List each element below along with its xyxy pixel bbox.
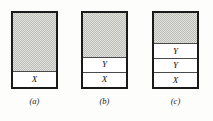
bar-band-b-hatched	[83, 13, 126, 57]
bar-band-b-y: Y	[83, 57, 126, 72]
caption-b: (b)	[81, 96, 128, 106]
bar-band-label-c-y1: Y	[173, 47, 178, 56]
bar-band-c-hatched	[154, 13, 197, 43]
bar-outline-b: Y X	[81, 11, 128, 89]
bar-band-label-c-x: X	[173, 76, 179, 85]
bar-outline-a: X	[11, 11, 58, 89]
bar-outline-c: Y Y X	[152, 11, 199, 89]
figure-panel-b: Y X	[81, 11, 128, 89]
bar-band-c-y1: Y	[154, 43, 197, 58]
bar-band-a-x: X	[13, 71, 56, 87]
bar-band-a-hatched	[13, 13, 56, 71]
bar-band-label-b-y: Y	[102, 60, 107, 69]
caption-a: (a)	[11, 96, 58, 106]
bar-band-c-x: X	[154, 72, 197, 87]
bar-band-label-a-x: X	[32, 75, 38, 84]
figure-panel-a: X	[11, 11, 58, 89]
figure-panel-c: Y Y X	[152, 11, 199, 89]
bar-band-label-c-y2: Y	[173, 61, 178, 70]
figure-canvas: X (a) Y X (b) Y Y	[0, 0, 213, 121]
bar-band-label-b-x: X	[102, 75, 108, 84]
bar-band-c-y2: Y	[154, 58, 197, 73]
caption-c: (c)	[152, 96, 199, 106]
bar-band-b-x: X	[83, 72, 126, 87]
